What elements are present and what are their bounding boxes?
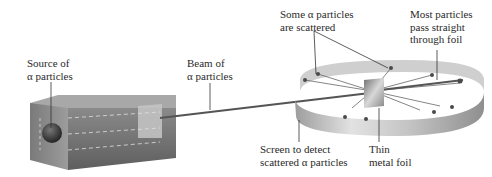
metal-foil <box>364 78 384 108</box>
label-foil: Thin metal foil <box>369 143 411 168</box>
straight-beam <box>372 80 463 91</box>
label-beam: Beam of α particles <box>187 57 233 82</box>
alpha-source <box>42 123 62 143</box>
label-scattered: Some α particles are scattered <box>280 8 354 33</box>
label-source: Source of α particles <box>27 57 73 82</box>
label-screen: Screen to detect scattered α particles <box>260 143 348 168</box>
screen-ring-back <box>300 60 484 92</box>
label-most-pass: Most particles pass straight through foi… <box>410 8 473 46</box>
alpha-beam <box>160 93 370 118</box>
